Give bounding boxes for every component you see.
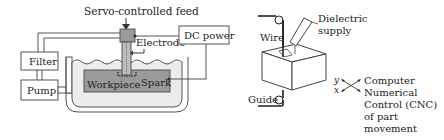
electrode [122, 42, 131, 75]
dielectric-nozzle [290, 18, 312, 46]
guide-label: Guide [248, 94, 278, 105]
dielectric-supply-label-1: Dielectric [318, 13, 368, 24]
spark-label: Spark [141, 77, 172, 88]
cnc-label-line4: of part [364, 111, 398, 122]
workpiece-label: Workpiece [87, 79, 141, 90]
diagram-canvas: Servo-controlled feed Filter Pump Workpi… [0, 0, 444, 140]
cnc-label-line1: Computer [364, 75, 415, 86]
wire-edm-diagram: Dielectric supply Wire Guide y x Compute… [248, 13, 437, 134]
pump-label: Pump [27, 85, 56, 96]
electrode-pointer [133, 49, 144, 53]
wire-label: Wire [260, 32, 284, 43]
cnc-label-line2: Numerical [364, 87, 417, 98]
servo-feed-label: Servo-controlled feed [84, 5, 199, 17]
pipe-outer [38, 33, 120, 52]
filter-label: Filter [29, 56, 57, 67]
electrode-label: Electrode [136, 37, 185, 48]
axis-y-label: y [333, 75, 340, 85]
axis-x-label: x [334, 85, 339, 95]
edm-diagram: Servo-controlled feed Filter Pump Workpi… [21, 5, 235, 112]
cnc-label-line3: Control (CNC) [364, 99, 437, 110]
pipe-inner [44, 38, 120, 52]
servo-head [120, 29, 135, 42]
top-guide-pulley [275, 16, 283, 24]
cnc-label-line5: movement [364, 123, 417, 134]
dielectric-supply-label-2: supply [318, 25, 352, 36]
dc-power-label: DC power [184, 30, 235, 41]
tank-inlet-pipe [66, 57, 72, 93]
